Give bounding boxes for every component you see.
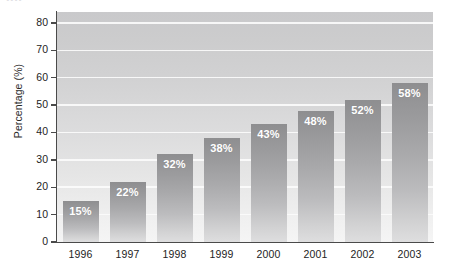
bar-2003[interactable]: 58%	[392, 83, 428, 242]
x-tick-label-2001: 2001	[289, 248, 343, 260]
x-tick-label-2003: 2003	[383, 248, 437, 260]
clipped-title-text: ....	[6, 0, 22, 4]
bar-value-label-1996: 15%	[63, 205, 99, 217]
bar-1999[interactable]: 38%	[204, 138, 240, 242]
y-tick-label-80: 80	[24, 16, 48, 28]
bar-value-label-2001: 48%	[298, 115, 334, 127]
bar-2001[interactable]: 48%	[298, 111, 334, 242]
bar-value-label-1997: 22%	[110, 186, 146, 198]
y-tick-label-60: 60	[24, 71, 48, 83]
x-tick-label-1999: 1999	[195, 248, 249, 260]
y-tick-mark-20	[51, 187, 57, 188]
bar-chart-figure: Percentage (%) 15%22%32%38%43%48%52%58% …	[0, 0, 450, 272]
x-tick-label-1997: 1997	[101, 248, 155, 260]
bar-value-label-2002: 52%	[345, 104, 381, 116]
bar-2002[interactable]: 52%	[345, 100, 381, 242]
y-tick-mark-0	[51, 241, 57, 242]
y-tick-label-30: 30	[24, 153, 48, 165]
bars-group: 15%22%32%38%43%48%52%58%	[57, 12, 433, 242]
x-tick-label-1996: 1996	[54, 248, 108, 260]
y-tick-mark-80	[51, 22, 57, 23]
y-tick-label-10: 10	[24, 208, 48, 220]
bar-1997[interactable]: 22%	[110, 182, 146, 242]
y-tick-mark-70	[51, 50, 57, 51]
y-tick-mark-10	[51, 214, 57, 215]
plot-area: 15%22%32%38%43%48%52%58%	[57, 12, 433, 242]
y-axis-line	[56, 11, 57, 243]
clipped-title-strip: ....	[0, 0, 450, 5]
y-tick-label-50: 50	[24, 98, 48, 110]
y-tick-mark-30	[51, 159, 57, 160]
bar-value-label-1998: 32%	[157, 158, 193, 170]
y-axis-title: Percentage (%)	[12, 46, 24, 156]
x-axis-line	[56, 242, 434, 243]
x-tick-label-2002: 2002	[336, 248, 390, 260]
bar-2000[interactable]: 43%	[251, 124, 287, 242]
bar-value-label-2003: 58%	[392, 87, 428, 99]
bar-1998[interactable]: 32%	[157, 154, 193, 242]
y-tick-label-0: 0	[24, 235, 48, 247]
y-tick-label-20: 20	[24, 180, 48, 192]
bar-1996[interactable]: 15%	[63, 201, 99, 242]
bar-value-label-1999: 38%	[204, 142, 240, 154]
y-tick-mark-50	[51, 104, 57, 105]
x-tick-label-1998: 1998	[148, 248, 202, 260]
y-tick-mark-40	[51, 132, 57, 133]
y-tick-label-40: 40	[24, 125, 48, 137]
y-tick-mark-60	[51, 77, 57, 78]
bar-value-label-2000: 43%	[251, 128, 287, 140]
x-tick-label-2000: 2000	[242, 248, 296, 260]
y-tick-label-70: 70	[24, 43, 48, 55]
